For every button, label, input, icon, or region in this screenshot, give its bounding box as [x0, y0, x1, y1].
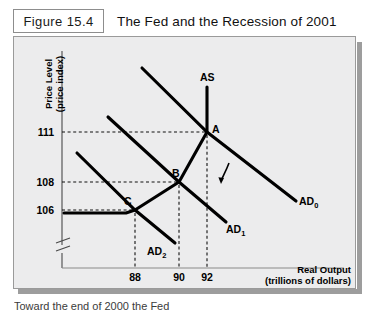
figure-caption: Toward the end of 2000 the Fed: [14, 300, 364, 314]
y-tick-106: 106: [24, 204, 54, 216]
point-label-a: A: [212, 123, 220, 135]
y-axis-label-line2: (price index): [54, 36, 65, 132]
figure-page: Figure 15.4 The Fed and the Recession of…: [0, 0, 376, 314]
ad0-label-sub: 0: [314, 201, 318, 210]
figure-header: Figure 15.4 The Fed and the Recession of…: [13, 7, 356, 35]
ad0-label-text: AD: [299, 195, 314, 207]
y-axis-label: Price Level (price index): [43, 36, 65, 132]
y-tick-111: 111: [24, 126, 54, 138]
ad2-label-sub: 2: [162, 251, 166, 260]
ad1-label-text: AD: [226, 223, 241, 235]
panel-shadow-right: [357, 42, 362, 294]
point-label-b: B: [172, 167, 180, 179]
as-curve-label: AS: [200, 71, 215, 83]
y-axis-label-line1: Price Level: [43, 36, 54, 132]
x-axis-label-line2: (trillions of dollars): [265, 275, 351, 286]
figure-title: The Fed and the Recession of 2001: [117, 10, 369, 32]
x-tick-92: 92: [195, 271, 219, 283]
shift-arrow-icon: [218, 163, 229, 184]
ad2-label-text: AD: [147, 245, 162, 257]
y-tick-108: 108: [24, 176, 54, 188]
axis-break-zigzag-icon: [56, 238, 70, 251]
x-axis-label-line1: Real Output: [265, 264, 351, 275]
x-tick-88: 88: [123, 271, 147, 283]
chart-svg: [14, 37, 357, 290]
ad1-label-sub: 1: [241, 229, 245, 238]
chart-plot-area: Price Level (price index) 111 108 106 88…: [14, 37, 357, 290]
x-tick-90: 90: [167, 271, 191, 283]
x-axis-label: Real Output (trillions of dollars): [265, 264, 351, 286]
point-label-c: C: [124, 195, 132, 207]
as-curve: [64, 87, 207, 213]
ad1-curve-label: AD1: [226, 223, 245, 238]
figure-number-label: Figure 15.4: [23, 14, 93, 29]
ad0-curve-label: AD0: [299, 195, 318, 210]
chart-panel: Price Level (price index) 111 108 106 88…: [13, 36, 356, 289]
ad2-curve-label: AD2: [147, 245, 166, 260]
figure-number-box: Figure 15.4: [13, 9, 104, 33]
axis-lines: [62, 51, 344, 268]
